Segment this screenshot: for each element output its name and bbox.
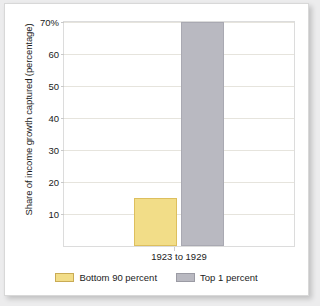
y-axis-tick-label-40: 40 <box>48 113 59 124</box>
y-axis-tick-label-60: 60 <box>48 49 59 60</box>
chart-card: Share of income growth captured (percent… <box>4 3 309 296</box>
y-axis-tick-label-10: 10 <box>48 209 59 220</box>
gridline-30 <box>64 150 294 151</box>
legend-label-top-1-percent: Top 1 percent <box>200 272 258 283</box>
y-axis-title: Share of income growth captured (percent… <box>23 15 34 225</box>
gridline-10 <box>64 214 294 215</box>
y-axis-tick-mark-70 <box>61 22 64 23</box>
chart-legend: Bottom 90 percent Top 1 percent <box>5 272 308 283</box>
gridline-70 <box>64 22 294 23</box>
legend-item-top-1-percent[interactable]: Top 1 percent <box>176 272 258 283</box>
x-axis-category-label: 1923 to 1929 <box>63 251 295 262</box>
gridline-20 <box>64 182 294 183</box>
y-axis-tick-mark-50 <box>61 86 64 87</box>
y-axis-tick-label-50: 50 <box>48 81 59 92</box>
y-axis-tick-mark-40 <box>61 118 64 119</box>
gridline-50 <box>64 86 294 87</box>
gridline-60 <box>64 54 294 55</box>
bar-bottom-90-percent[interactable] <box>134 198 177 246</box>
y-axis-tick-label-70: 70% <box>40 17 59 28</box>
legend-label-bottom-90-percent: Bottom 90 percent <box>79 272 157 283</box>
y-axis-tick-label-30: 30 <box>48 145 59 156</box>
gridline-40 <box>64 118 294 119</box>
legend-swatch-icon-top-1-percent <box>176 273 195 282</box>
legend-item-bottom-90-percent[interactable]: Bottom 90 percent <box>55 272 157 283</box>
legend-swatch-icon-bottom-90-percent <box>55 273 74 282</box>
y-axis-tick-mark-20 <box>61 182 64 183</box>
y-axis-tick-mark-60 <box>61 54 64 55</box>
y-axis-tick-label-20: 20 <box>48 177 59 188</box>
y-axis-tick-mark-10 <box>61 214 64 215</box>
y-axis-tick-mark-30 <box>61 150 64 151</box>
bar-top-1-percent[interactable] <box>181 22 224 246</box>
plot-area: 70%605040302010 <box>63 21 295 247</box>
